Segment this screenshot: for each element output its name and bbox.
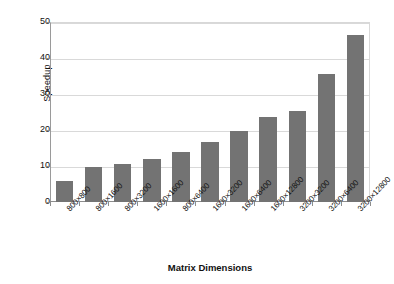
- bar[interactable]: [85, 167, 102, 202]
- y-tick-label: 40: [8, 53, 50, 62]
- bar-slot: [166, 22, 195, 202]
- bar-slot: [225, 22, 254, 202]
- bar-slot: [254, 22, 283, 202]
- y-tick-label: 10: [8, 161, 50, 170]
- y-tick-label: 20: [8, 125, 50, 134]
- x-tick-mark: [50, 202, 51, 206]
- y-tick-label: 30: [8, 89, 50, 98]
- bar-slot: [312, 22, 341, 202]
- bar-chart-figure: Speedup 01020304050 800×800800×1600800×3…: [0, 0, 394, 284]
- bar-slot: [341, 22, 370, 202]
- bar-slot: [108, 22, 137, 202]
- bar-slot: [137, 22, 166, 202]
- bar-slot: [195, 22, 224, 202]
- bars-layer: [50, 22, 370, 202]
- x-axis-title: Matrix Dimensions: [50, 262, 370, 273]
- bar-slot: [50, 22, 79, 202]
- bar[interactable]: [347, 35, 364, 202]
- x-axis-tick-labels: 800×800800×1600800×32001600×1600800×6400…: [50, 207, 370, 257]
- y-tick-label: 50: [8, 17, 50, 26]
- bar-slot: [79, 22, 108, 202]
- y-tick-label: 0: [8, 197, 50, 206]
- bar[interactable]: [56, 181, 73, 202]
- y-axis-ticks: 01020304050: [0, 0, 50, 284]
